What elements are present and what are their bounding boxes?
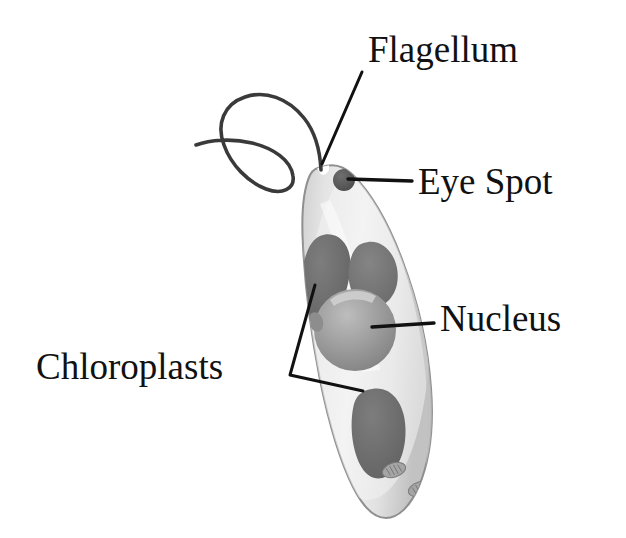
euglena-cell-body xyxy=(294,160,443,518)
label-eye-spot: Eye Spot xyxy=(418,161,553,202)
flagellum-strand xyxy=(196,95,321,192)
label-nucleus: Nucleus xyxy=(440,298,561,339)
leader-line-flagellum xyxy=(322,72,362,164)
leader-line-eye-spot xyxy=(348,179,412,181)
diagram-canvas: Flagellum Eye Spot Nucleus Chloroplasts xyxy=(0,0,626,538)
label-chloroplasts: Chloroplasts xyxy=(36,346,223,387)
euglena-diagram: Flagellum Eye Spot Nucleus Chloroplasts xyxy=(0,0,626,538)
label-flagellum: Flagellum xyxy=(368,29,518,70)
nucleus xyxy=(314,289,396,371)
